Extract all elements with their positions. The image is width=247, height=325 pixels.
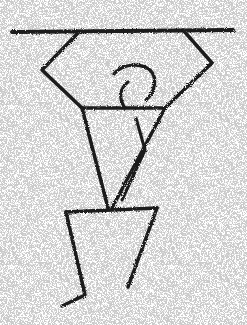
speckle-texture <box>10 15 240 315</box>
petroglyph-figure <box>0 0 247 325</box>
held-bar <box>12 30 233 32</box>
